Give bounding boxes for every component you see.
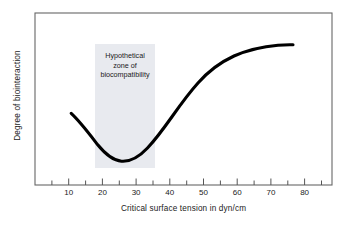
x-tick-label-70: 70 (259, 188, 283, 197)
x-axis-label: Critical surface tension in dyn/cm (35, 204, 332, 213)
x-tick-label-60: 60 (225, 188, 249, 197)
x-tick-label-50: 50 (192, 188, 216, 197)
x-tick-label-30: 30 (124, 188, 148, 197)
chart-figure: Degree of biointeraction Critical surfac… (0, 0, 347, 231)
x-tick-label-10: 10 (57, 188, 81, 197)
x-tick-label-40: 40 (158, 188, 182, 197)
x-tick-label-20: 20 (90, 188, 114, 197)
x-axis-minor-ticks (52, 181, 322, 186)
x-tick-label-80: 80 (293, 188, 317, 197)
